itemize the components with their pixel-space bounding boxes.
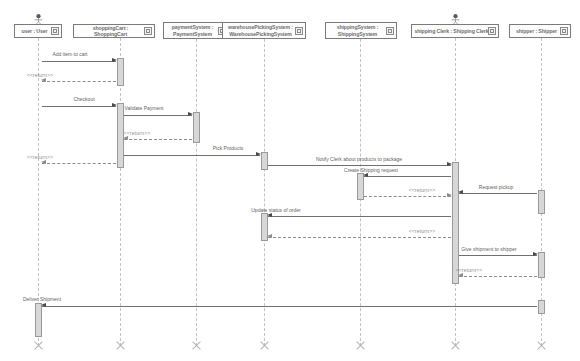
message-line-m11	[459, 193, 537, 194]
message-label-m16: Deliver Shipment	[23, 296, 61, 302]
activation-bar-user	[35, 303, 42, 337]
activation-bar-payment	[193, 112, 200, 143]
destruction-marker-warehouse	[259, 340, 270, 351]
message-label-m9: Create Shipping request	[344, 167, 398, 173]
message-arrowhead-m8	[447, 162, 452, 166]
activation-bar-shipper	[538, 300, 545, 314]
message-arrowhead-m10	[447, 193, 452, 197]
object-stereotype-icon	[560, 27, 568, 35]
message-arrowhead-m5	[123, 136, 128, 140]
object-stereotype-icon	[144, 27, 152, 35]
destruction-marker-cart	[115, 340, 126, 351]
lifeline-label-warehouse: warehousePickingSystem :WarehousePicking…	[228, 24, 293, 36]
message-line-m13	[268, 237, 451, 238]
actor-icon-user	[34, 11, 43, 22]
lifeline-head-warehouse[interactable]: warehousePickingSystem :WarehousePicking…	[222, 22, 306, 39]
message-line-m3	[42, 106, 116, 107]
message-arrowhead-m13	[267, 234, 272, 238]
destruction-marker-shipping	[355, 340, 366, 351]
message-arrowhead-m2	[41, 78, 46, 82]
activation-bar-cart	[117, 58, 124, 86]
message-line-m1	[42, 61, 116, 62]
message-arrowhead-m12	[267, 213, 272, 217]
message-arrowhead-m1	[112, 58, 117, 62]
message-label-m7: Pick Products	[213, 145, 244, 151]
activation-bar-shipper	[538, 252, 545, 278]
message-label-m10: <<return>>	[409, 187, 436, 193]
message-line-m7	[124, 155, 260, 156]
object-stereotype-icon	[51, 27, 59, 35]
message-line-m16	[42, 306, 537, 307]
object-stereotype-icon	[488, 27, 496, 35]
lifeline-head-clerk[interactable]: shipping Clerk : Shipping Clerk	[411, 24, 499, 38]
destruction-marker-payment	[191, 340, 202, 351]
activation-bar-clerk	[452, 162, 459, 284]
lifeline-head-payment[interactable]: paymentSystem :PaymentSystem	[163, 22, 229, 39]
destruction-marker-clerk	[450, 340, 461, 351]
destruction-marker-user	[33, 340, 44, 351]
lifeline-head-user[interactable]: user : User	[14, 24, 62, 38]
message-line-m15	[459, 276, 537, 277]
message-line-m10	[364, 196, 451, 197]
message-line-m5	[124, 139, 192, 140]
sequence-diagram-canvas: user : UsershoppingCart : ShoppingCartpa…	[0, 0, 580, 361]
message-arrowhead-m9	[363, 173, 368, 177]
message-line-m6	[42, 163, 116, 164]
lifeline-label-cart: shoppingCart : ShoppingCart	[76, 25, 145, 37]
message-arrowhead-m15	[458, 273, 463, 277]
message-arrowhead-m11	[458, 190, 463, 194]
message-label-m4: Validate Payment	[125, 105, 164, 111]
message-label-m13: <<return>>	[409, 228, 436, 234]
message-arrowhead-m7	[256, 152, 261, 156]
message-line-m9	[364, 176, 451, 177]
message-line-m12	[268, 216, 451, 217]
object-stereotype-icon	[386, 27, 394, 35]
message-line-m2	[42, 81, 116, 82]
message-arrowhead-m4	[188, 112, 193, 116]
lifeline-head-shipper[interactable]: shipper : Shipper	[509, 24, 571, 38]
message-arrowhead-m3	[112, 103, 117, 107]
message-label-m11: Request pickup	[479, 184, 513, 190]
activation-bar-warehouse	[261, 152, 268, 170]
message-label-m1: Add item to cart	[52, 51, 87, 57]
lifeline-payment	[196, 39, 197, 346]
object-stereotype-icon	[295, 27, 303, 35]
message-label-m12: Update status of order	[251, 207, 300, 213]
message-label-m3: Checkout	[73, 96, 94, 102]
message-label-m14: Give shipment to shipper	[461, 246, 516, 252]
message-label-m8: Notify Clerk about products to package	[316, 156, 402, 162]
message-arrowhead-m14	[533, 252, 538, 256]
lifeline-warehouse	[264, 39, 265, 346]
message-label-m15: <<return>>	[456, 267, 483, 273]
message-line-m8	[268, 165, 451, 166]
lifeline-label-user: user : User	[21, 28, 47, 34]
message-line-m4	[124, 115, 192, 116]
message-arrowhead-m6	[41, 160, 46, 164]
message-label-m2: <<return>>	[27, 72, 54, 78]
destruction-marker-shipper	[536, 340, 547, 351]
message-label-m6: <<return>>	[27, 154, 54, 160]
lifeline-label-shipping: shippingSystem :ShippingSystem	[337, 24, 379, 36]
message-arrowhead-m16	[41, 303, 46, 307]
message-label-m5: <<return>>	[124, 130, 151, 136]
activation-bar-shipper	[538, 190, 545, 214]
lifeline-label-clerk: shipping Clerk : Shipping Clerk	[414, 28, 488, 34]
lifeline-label-shipper: shipper : Shipper	[516, 28, 557, 34]
lifeline-head-cart[interactable]: shoppingCart : ShoppingCart	[73, 24, 155, 38]
lifeline-label-payment: paymentSystem :PaymentSystem	[172, 24, 213, 36]
message-line-m14	[459, 255, 537, 256]
lifeline-head-shipping[interactable]: shippingSystem :ShippingSystem	[325, 22, 397, 39]
actor-icon-clerk	[451, 11, 460, 22]
